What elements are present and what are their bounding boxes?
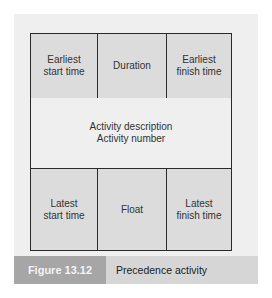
bottom-row: Latest start time Float Latest finish ti… (31, 169, 231, 250)
earliest-finish-time-cell: Earliest finish time (166, 34, 231, 98)
cell-label: Earliest start time (43, 54, 84, 78)
precedence-activity-node: Earliest start time Duration Earliest fi… (30, 33, 232, 251)
cell-label: Earliest finish time (176, 54, 221, 78)
activity-number: Activity number (90, 133, 173, 145)
latest-start-time-cell: Latest start time (31, 169, 97, 250)
figure-title: Precedence activity (106, 256, 207, 284)
figure-label: Figure 13.12 (14, 256, 106, 284)
latest-finish-time-cell: Latest finish time (166, 169, 231, 250)
earliest-start-time-cell: Earliest start time (31, 34, 97, 98)
activity-description-block: Activity description Activity number (90, 121, 173, 145)
top-row: Earliest start time Duration Earliest fi… (31, 34, 231, 99)
activity-description: Activity description (90, 121, 173, 133)
cell-label: Duration (113, 60, 151, 72)
figure-caption: Figure 13.12 Precedence activity (14, 256, 258, 284)
cell-label: Latest finish time (176, 198, 221, 222)
cell-label: Latest start time (43, 198, 84, 222)
middle-row: Activity description Activity number (31, 98, 231, 169)
float-cell: Float (97, 169, 166, 250)
duration-cell: Duration (97, 34, 166, 98)
cell-label: Float (121, 204, 143, 216)
